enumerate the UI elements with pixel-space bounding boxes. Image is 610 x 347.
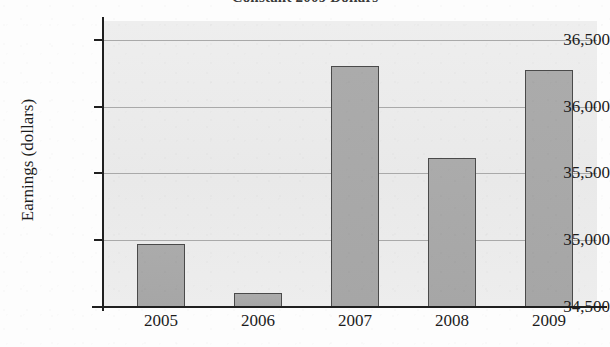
bar-2006 <box>234 293 282 307</box>
y-tick-label-35000: 35,000 <box>532 230 610 250</box>
y-tick-label-36500: 36,500 <box>532 30 610 50</box>
x-tick-label-2008: 2008 <box>407 311 497 331</box>
x-axis-line <box>92 306 607 308</box>
chart-figure: Constant 2009 Dollars Earnings (dollars)… <box>0 0 610 347</box>
y-tick-label-35500: 35,500 <box>532 163 610 183</box>
y-axis-line <box>102 17 104 311</box>
y-axis-title: Earnings (dollars) <box>18 50 38 270</box>
y-tick-mark-34500 <box>94 306 104 308</box>
x-tick-label-2009: 2009 <box>504 311 594 331</box>
y-tick-mark-35500 <box>94 172 104 174</box>
bar-2007 <box>331 66 379 307</box>
y-tick-mark-35000 <box>94 239 104 241</box>
y-tick-mark-36000 <box>94 106 104 108</box>
x-tick-label-2005: 2005 <box>116 311 206 331</box>
bar-2008 <box>428 158 476 307</box>
x-tick-label-2007: 2007 <box>310 311 400 331</box>
gridline-36500 <box>103 40 597 41</box>
bar-2005 <box>137 244 185 307</box>
chart-title: Constant 2009 Dollars <box>0 0 610 6</box>
y-tick-mark-36500 <box>94 39 104 41</box>
y-tick-label-36000: 36,000 <box>532 97 610 117</box>
plot-area <box>103 21 597 307</box>
x-tick-label-2006: 2006 <box>213 311 303 331</box>
